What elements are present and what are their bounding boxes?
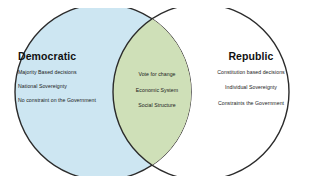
left-set-item-1: Majority Based decisions	[18, 69, 104, 77]
right-set-item-1: Constitution based decisions	[193, 69, 309, 77]
right-set-title: Republic	[193, 51, 309, 63]
right-set-labels: Republic Constitution based decisions In…	[193, 51, 309, 115]
overlap-set-item-1: Vote for change	[118, 71, 196, 79]
left-set-labels: Democratic Majority Based decisions Nati…	[18, 51, 104, 104]
left-set-item-3: No constraint on the Government	[18, 97, 104, 105]
overlap-set-labels: Vote for change Economic System Social S…	[118, 71, 196, 118]
overlap-set-item-2: Economic System	[118, 87, 196, 95]
overlap-set-item-3: Social Structure	[118, 102, 196, 110]
right-set-item-3: Constraints the Government	[193, 100, 309, 108]
venn-diagram: Democratic Majority Based decisions Nati…	[0, 0, 315, 185]
left-set-title: Democratic	[18, 51, 104, 63]
right-set-item-2: Individual Sovereignty	[193, 84, 309, 92]
venn-label-layer: Democratic Majority Based decisions Nati…	[0, 0, 315, 185]
left-set-item-2: National Sovereignty	[18, 83, 104, 91]
